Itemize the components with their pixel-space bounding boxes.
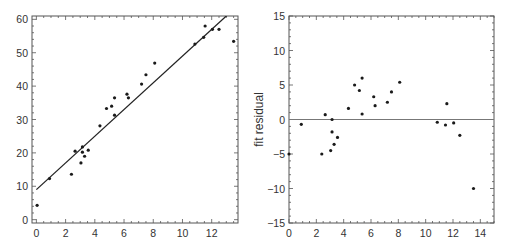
data-point (81, 145, 84, 148)
data-point (330, 118, 333, 121)
data-point (353, 83, 356, 86)
x-tick-label: 6 (368, 227, 374, 239)
data-point (70, 173, 73, 176)
data-point (217, 28, 220, 31)
plot-area (36, 5, 238, 189)
x-tick-label: 8 (150, 227, 156, 239)
data-point (324, 113, 327, 116)
data-point (211, 28, 214, 31)
data-point (113, 96, 116, 99)
data-point (73, 150, 76, 153)
y-tick-label: −10 (267, 183, 285, 195)
data-point (98, 124, 101, 127)
x-tick-label: 10 (420, 227, 432, 239)
data-point (83, 155, 86, 158)
data-point (125, 93, 128, 96)
data-point (48, 177, 51, 180)
data-point (320, 152, 323, 155)
data-points (36, 24, 236, 206)
plot-frame (32, 16, 238, 223)
data-point (361, 77, 364, 80)
fit-line (36, 5, 238, 189)
x-tick-label: 4 (341, 227, 347, 239)
data-point (336, 136, 339, 139)
data-point (140, 83, 143, 86)
data-point (144, 73, 147, 76)
residual-plot: 02468101214−15−10−5051015fit residual (252, 10, 494, 239)
x-tick-label: 2 (63, 227, 69, 239)
data-point (445, 102, 448, 105)
data-point (444, 123, 447, 126)
data-point (300, 123, 303, 126)
y-tick-label: 5 (279, 79, 285, 91)
y-tick-label: 10 (16, 180, 28, 192)
y-tick-label: 30 (16, 114, 28, 126)
data-point (333, 143, 336, 146)
data-point (436, 121, 439, 124)
data-point (472, 187, 475, 190)
y-tick-label: 20 (16, 147, 28, 159)
y-tick-label: 50 (16, 47, 28, 59)
x-tick-label: 8 (395, 227, 401, 239)
data-point (458, 134, 461, 137)
data-point (361, 112, 364, 115)
data-point (87, 149, 90, 152)
data-point (110, 105, 113, 108)
x-tick-label: 12 (206, 227, 218, 239)
data-point (36, 204, 39, 207)
y-tick-label: 15 (273, 10, 285, 22)
data-point (287, 152, 290, 155)
x-tick-label: 6 (121, 227, 127, 239)
data-point (113, 114, 116, 117)
figure: 0246810120102030405060 02468101214−15−10… (0, 0, 509, 250)
data-point (329, 149, 332, 152)
data-point (372, 95, 375, 98)
x-tick-label: 14 (474, 227, 486, 239)
data-point (81, 151, 84, 154)
data-point (398, 81, 401, 84)
y-tick-label: 0 (279, 114, 285, 126)
data-point (105, 107, 108, 110)
tick-labels: 0246810120102030405060 (16, 13, 217, 239)
data-point (232, 40, 235, 43)
data-point (204, 24, 207, 27)
axis-ticks (32, 16, 238, 223)
y-axis-title: fit residual (252, 92, 266, 147)
y-tick-label: 40 (16, 80, 28, 92)
data-point (79, 161, 82, 164)
x-tick-label: 0 (33, 227, 39, 239)
data-point (153, 61, 156, 64)
y-tick-label: 0 (22, 214, 28, 226)
data-point (452, 121, 455, 124)
y-tick-label: 10 (273, 45, 285, 57)
x-tick-label: 2 (313, 227, 319, 239)
data-point (193, 42, 196, 45)
x-tick-label: 12 (447, 227, 459, 239)
x-tick-label: 10 (177, 227, 189, 239)
y-tick-label: −15 (267, 217, 285, 229)
data-points (287, 77, 475, 191)
data-point (390, 90, 393, 93)
x-tick-label: 0 (286, 227, 292, 239)
data-point (347, 107, 350, 110)
data-point (374, 104, 377, 107)
data-point (386, 101, 389, 104)
scatter-fit-plot: 0246810120102030405060 (16, 5, 238, 239)
data-point (127, 96, 130, 99)
data-point (330, 130, 333, 133)
x-tick-label: 4 (92, 227, 98, 239)
y-tick-label: −5 (273, 148, 285, 160)
data-point (358, 89, 361, 92)
data-point (202, 36, 205, 39)
y-tick-label: 60 (16, 13, 28, 25)
